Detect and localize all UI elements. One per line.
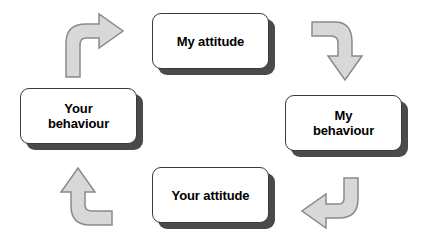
node-my-behaviour-label: My behaviour: [313, 108, 374, 138]
arrow-top-left-icon: [66, 14, 123, 77]
node-your-behaviour[interactable]: Your behaviour: [20, 88, 137, 144]
arrow-bottom-left-icon: [61, 168, 112, 225]
node-my-behaviour[interactable]: My behaviour: [285, 95, 402, 151]
arrow-bottom-right-icon: [302, 178, 358, 228]
cycle-diagram: My attitude My behaviour Your attitude Y…: [0, 0, 423, 246]
arrow-top-right-icon: [312, 22, 362, 80]
node-your-attitude[interactable]: Your attitude: [152, 167, 269, 223]
node-my-attitude[interactable]: My attitude: [152, 13, 269, 69]
node-your-attitude-label: Your attitude: [172, 188, 250, 203]
node-my-attitude-label: My attitude: [177, 34, 245, 49]
node-your-behaviour-label: Your behaviour: [48, 101, 109, 131]
